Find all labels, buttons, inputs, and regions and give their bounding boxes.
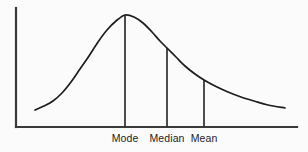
distribution-chart-canvas [0, 0, 308, 152]
skewed-distribution-diagram: Mode Median Mean [0, 0, 308, 152]
chart-axes [16, 8, 297, 127]
median-label: Median [149, 132, 184, 145]
distribution-curve [35, 15, 285, 110]
mode-label: Mode [112, 132, 139, 145]
mean-label: Mean [191, 132, 218, 145]
